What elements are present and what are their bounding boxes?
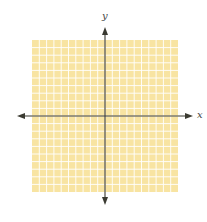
y-axis-up-arrow-icon — [102, 27, 108, 35]
x-axis-right-arrow-icon — [185, 113, 193, 119]
x-axis-left-arrow-icon — [17, 113, 25, 119]
y-axis-label: y — [102, 11, 108, 21]
x-axis-label: x — [197, 110, 203, 120]
coordinate-plane — [0, 0, 207, 222]
y-axis-down-arrow-icon — [102, 197, 108, 205]
